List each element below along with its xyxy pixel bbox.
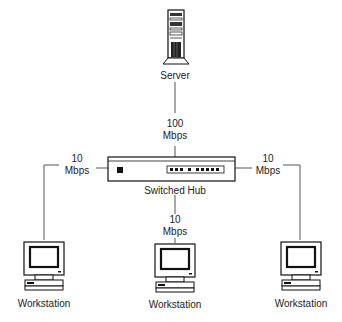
workstation-computer-icon xyxy=(279,241,323,293)
switched-hub-icon xyxy=(107,156,237,183)
workstation-right-node xyxy=(279,241,323,293)
link-speed-server-hub: 100 Mbps xyxy=(161,118,189,142)
speed-value: 10 xyxy=(256,153,280,165)
server-node xyxy=(160,8,192,66)
workstation-center-label: Workstation xyxy=(149,299,202,310)
workstation-left-node xyxy=(22,241,66,293)
speed-unit: Mbps xyxy=(163,130,187,142)
speed-value: 10 xyxy=(163,214,187,226)
server-tower-icon xyxy=(160,8,192,66)
speed-value: 10 xyxy=(65,153,89,165)
link-speed-hub-right: 10 Mbps xyxy=(254,153,282,177)
speed-unit: Mbps xyxy=(65,165,89,177)
speed-value: 100 xyxy=(163,118,187,130)
workstation-center-node xyxy=(153,243,197,295)
workstation-computer-icon xyxy=(22,241,66,293)
workstation-left-label: Workstation xyxy=(18,298,71,309)
speed-unit: Mbps xyxy=(256,165,280,177)
workstation-computer-icon xyxy=(153,243,197,295)
speed-unit: Mbps xyxy=(163,226,187,238)
server-label: Server xyxy=(160,70,189,81)
link-speed-hub-left: 10 Mbps xyxy=(63,153,91,177)
hub-label: Switched Hub xyxy=(144,185,206,196)
workstation-right-label: Workstation xyxy=(275,298,328,309)
link-speed-hub-center: 10 Mbps xyxy=(161,214,189,238)
hub-node xyxy=(107,156,237,183)
